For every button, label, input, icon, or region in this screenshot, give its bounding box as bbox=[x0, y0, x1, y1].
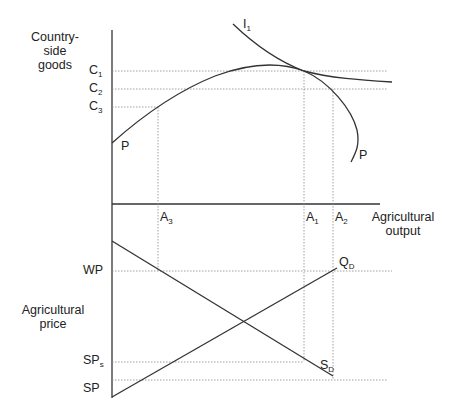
ppf-label-left: P bbox=[121, 139, 129, 153]
tick-a2: A2 bbox=[335, 210, 348, 229]
indifference-curve bbox=[233, 24, 392, 82]
demand-line-label: SD bbox=[320, 358, 334, 377]
tick-wp: WP bbox=[83, 263, 103, 277]
y-axis-label-bottom: Agricultural price bbox=[18, 303, 88, 331]
tick-a1: A1 bbox=[306, 210, 319, 229]
y-axis-label-line: price bbox=[18, 317, 88, 331]
demand-line bbox=[112, 241, 333, 376]
production-possibility-curve bbox=[112, 65, 358, 162]
x-axis-label: Agricultural output bbox=[366, 210, 440, 238]
indifference-label: I1 bbox=[243, 17, 251, 36]
y-axis-label-line: Country- bbox=[25, 30, 85, 44]
y-axis-label-line: side bbox=[25, 44, 85, 58]
tick-c1: C1 bbox=[89, 63, 102, 82]
ppf-label-right: P bbox=[359, 148, 367, 162]
guide-lines-bottom bbox=[112, 271, 392, 380]
y-axis-label-line: goods bbox=[25, 58, 85, 72]
tick-sps: SPs bbox=[83, 353, 104, 372]
y-axis-label-line: Agricultural bbox=[18, 303, 88, 317]
x-axis-label-line: output bbox=[366, 224, 440, 238]
tick-sp: SP bbox=[83, 381, 100, 395]
x-axis-label-line: Agricultural bbox=[366, 210, 440, 224]
tick-a3: A3 bbox=[160, 210, 173, 229]
supply-line bbox=[112, 268, 337, 397]
tick-c3: C3 bbox=[89, 99, 102, 118]
tick-c2: C2 bbox=[89, 81, 102, 100]
supply-line-label: QD bbox=[339, 255, 355, 274]
y-axis-label-top: Country- side goods bbox=[25, 30, 85, 72]
